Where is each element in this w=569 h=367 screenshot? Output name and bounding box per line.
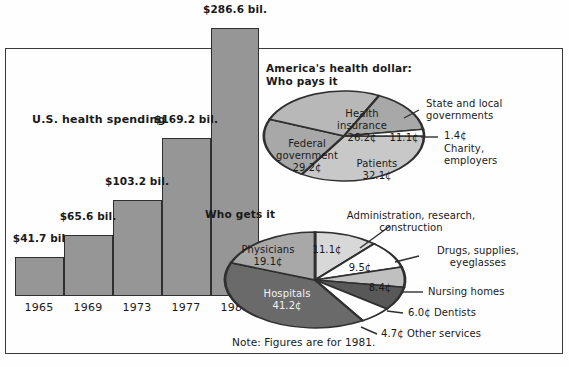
bar-year-label-1977: 1977 [161, 301, 211, 314]
pie-label-nursing-homes: Nursing homes [428, 286, 538, 298]
pie-who-pays-title: America's health dollar: Who pays it [266, 62, 412, 88]
bar-value-label-1969: $65.6 bil. [53, 211, 123, 223]
pie-label-dentists: 6.0¢ Dentists [408, 307, 518, 319]
bar-year-label-1965: 1965 [14, 301, 64, 314]
pie-label-patients: Patients 32.1¢ [342, 158, 412, 182]
bar-1965 [15, 257, 64, 296]
pie-label-administration-research-construction: Administration, research, construction [336, 210, 486, 234]
pie-label-drugs-supplies-eyeglasses: Drugs, supplies, eyeglasses [423, 245, 533, 269]
pie-label-charity-employers: Charity, employers [444, 143, 534, 167]
pie-label-nursing-homes-value: 8.4¢ [360, 282, 400, 294]
infographic-root: U.S. health spending $41.7 bil $65.6 bil… [0, 0, 569, 367]
pie-label-drugs-value: 9.5¢ [340, 262, 380, 274]
pie-label-charity-value: 1.4¢ [444, 130, 484, 142]
bar-value-label-1973: $103.2 bil. [102, 176, 172, 188]
pie-label-state-local-governments: State and local governments [426, 98, 541, 122]
bar-chart-title: U.S. health spending [32, 113, 166, 127]
bar-value-label-1977: $169.2 bil. [151, 114, 221, 126]
pie-label-hospitals: Hospitals 41.2¢ [247, 288, 327, 312]
bar-year-label-1973: 1973 [112, 301, 162, 314]
pie-label-other-services: 4.7¢ Other services [381, 328, 511, 340]
bar-1977 [162, 138, 211, 296]
pie-label-state-local-value: 11.1¢ [384, 132, 424, 144]
bar-value-label-1981: $286.6 bil. [200, 4, 270, 16]
bar-value-label-1965: $41.7 bil [4, 233, 74, 245]
pie-chart-who-pays: America's health dollar: Who pays it Fed [264, 62, 564, 192]
bar-year-label-1969: 1969 [63, 301, 113, 314]
figures-note: Note: Figures are for 1981. [232, 336, 375, 348]
pie-label-physicians: Physicians 19.1¢ [228, 244, 308, 268]
pie-label-administration-value: 11.1¢ [307, 244, 347, 256]
